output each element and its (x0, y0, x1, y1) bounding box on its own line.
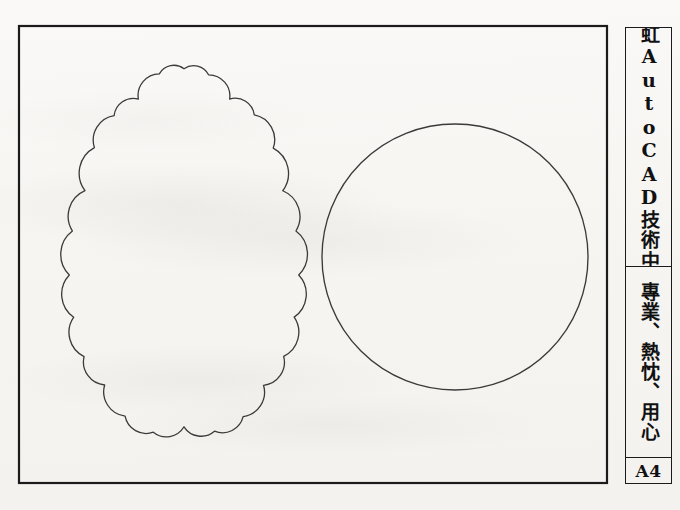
revision-cloud-shape (61, 65, 308, 437)
drawing-frame (19, 26, 607, 483)
title-block-sheet-size-cell: A4 (626, 458, 671, 483)
sheet-size-label: A4 (635, 461, 661, 481)
company-name: 翔虹AutoCAD技術中心 (639, 28, 658, 267)
title-block-company-cell: 翔虹AutoCAD技術中心 (626, 28, 671, 267)
title-block-slogan-cell: 專業、熱忱、用心 (626, 267, 671, 458)
cad-drawing-canvas (0, 0, 680, 510)
title-block: 翔虹AutoCAD技術中心 專業、熱忱、用心 A4 (625, 27, 672, 484)
drawing-sheet: 翔虹AutoCAD技術中心 專業、熱忱、用心 A4 (0, 0, 680, 510)
company-slogan: 專業、熱忱、用心 (639, 282, 658, 442)
circle-shape (322, 124, 588, 390)
